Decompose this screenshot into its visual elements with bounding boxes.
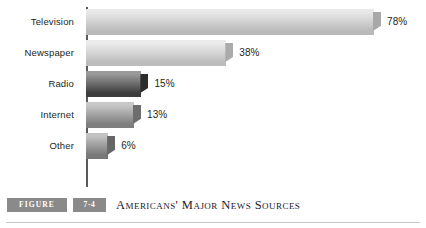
- bar-value-label: 6%: [121, 133, 136, 159]
- figure-caption: FIGURE 7-4 Americans' Major News Sources: [0, 196, 426, 228]
- bar-bottom-edge: [86, 155, 108, 159]
- bar-category-label: Other: [0, 133, 74, 159]
- figure-container: Television78%Newspaper38%Radio15%Interne…: [0, 0, 426, 228]
- bar-front-face: [86, 43, 226, 62]
- figure-number-badge: 7-4: [73, 198, 106, 212]
- caption-divider: [6, 222, 420, 223]
- bar-end-bevel: [373, 12, 381, 31]
- bar-row: Radio15%: [0, 71, 426, 97]
- bar-end-bevel: [140, 74, 148, 93]
- bar-row: Other6%: [0, 133, 426, 159]
- bar-chart: Television78%Newspaper38%Radio15%Interne…: [0, 0, 426, 192]
- bar-front-face: [86, 105, 134, 124]
- bar-other[interactable]: [86, 133, 108, 159]
- bar-front-face: [86, 136, 108, 155]
- bar-television[interactable]: [86, 9, 374, 35]
- bar-newspaper[interactable]: [86, 40, 226, 66]
- bar-bottom-edge: [86, 93, 141, 97]
- bar-radio[interactable]: [86, 71, 141, 97]
- bar-value-label: 78%: [387, 9, 407, 35]
- bar-category-label: Television: [0, 9, 74, 35]
- bar-bottom-edge: [86, 124, 134, 128]
- bar-category-label: Newspaper: [0, 40, 74, 66]
- figure-label-badge: FIGURE: [7, 198, 67, 212]
- bar-end-bevel: [225, 43, 233, 62]
- bar-end-bevel: [107, 136, 115, 155]
- bar-bottom-edge: [86, 62, 226, 66]
- bar-row: Newspaper38%: [0, 40, 426, 66]
- bar-value-label: 15%: [154, 71, 174, 97]
- bar-category-label: Internet: [0, 102, 74, 128]
- bar-end-bevel: [133, 105, 141, 124]
- bar-value-label: 13%: [147, 102, 167, 128]
- bar-front-face: [86, 12, 374, 31]
- bar-category-label: Radio: [0, 71, 74, 97]
- figure-title: Americans' Major News Sources: [116, 196, 300, 214]
- bar-row: Television78%: [0, 9, 426, 35]
- bar-value-label: 38%: [239, 40, 259, 66]
- bar-row: Internet13%: [0, 102, 426, 128]
- bar-bottom-edge: [86, 31, 374, 35]
- bar-internet[interactable]: [86, 102, 134, 128]
- bar-front-face: [86, 74, 141, 93]
